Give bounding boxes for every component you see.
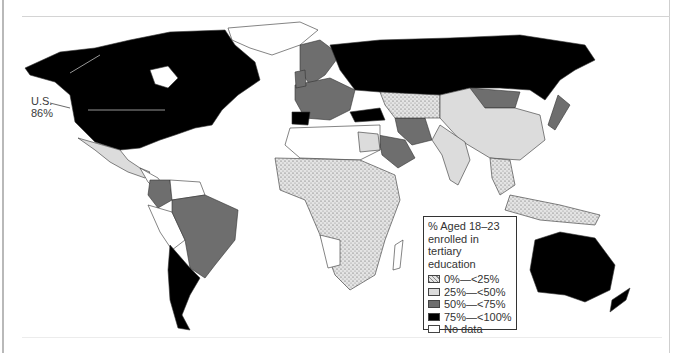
- legend-title-line: enrolled in: [428, 233, 512, 246]
- egypt: [358, 132, 380, 152]
- world-map: [0, 0, 681, 353]
- australia: [530, 232, 615, 302]
- central-asia: [380, 92, 440, 118]
- legend-label: 50%—<75%: [444, 298, 505, 311]
- japan: [548, 95, 570, 130]
- legend-label: 0%—<25%: [444, 273, 499, 286]
- swatch-stipple-icon: [428, 275, 440, 283]
- callout-country: U.S.: [31, 95, 53, 107]
- madagascar: [393, 240, 403, 270]
- legend-item: No data: [428, 323, 512, 336]
- uk: [295, 70, 306, 88]
- legend-item: 25%—<50%: [428, 286, 512, 299]
- legend-title-line: tertiary education: [428, 245, 512, 270]
- swatch-dark-gray-icon: [428, 300, 440, 308]
- legend-label: 25%—<50%: [444, 286, 505, 299]
- subsaharan-africa: [275, 158, 400, 290]
- turkey: [350, 108, 385, 122]
- legend-title-line: % Aged 18–23: [428, 220, 512, 233]
- legend-item: 50%—<75%: [428, 298, 512, 311]
- new-zealand: [610, 288, 630, 312]
- namibia: [320, 235, 340, 268]
- legend-title: % Aged 18–23 enrolled in tertiary educat…: [428, 220, 512, 270]
- colombia: [148, 180, 172, 208]
- legend-item: 0%—<25%: [428, 273, 512, 286]
- indonesia: [505, 195, 600, 225]
- swatch-black-icon: [428, 313, 440, 321]
- legend: % Aged 18–23 enrolled in tertiary educat…: [423, 216, 517, 330]
- legend-item: 75%—<100%: [428, 311, 512, 324]
- legend-label: 75%—<100%: [444, 311, 512, 324]
- us-callout: U.S. 86%: [31, 95, 53, 119]
- iberia: [292, 112, 310, 125]
- southeast-asia: [490, 158, 515, 195]
- callout-value: 86%: [31, 107, 53, 119]
- legend-label: No data: [444, 323, 483, 336]
- north-america: [25, 30, 260, 150]
- swatch-light-gray-icon: [428, 288, 440, 296]
- swatch-white-icon: [428, 325, 440, 333]
